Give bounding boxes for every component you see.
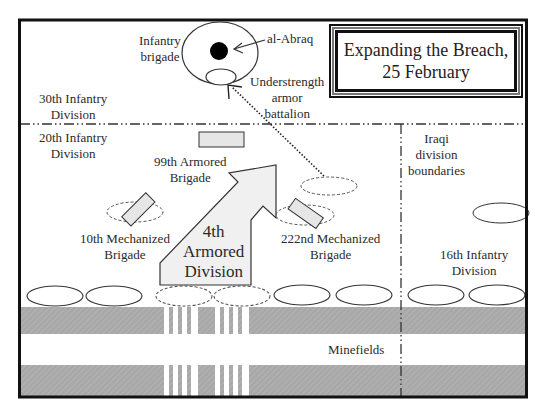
understrength-armor-ellipse [206,69,236,85]
minefield-upper [20,307,526,334]
label-iraqi-division-boundaries: Iraqi division boundaries [408,131,465,179]
map-title-box: Expanding the Breach, 25 February [335,30,517,92]
label-20th-infantry-division: 20th Infantry Division [39,130,107,162]
label-30th-infantry-division: 30th Infantry Division [39,91,107,123]
front-line-units [27,285,525,306]
label-10th-mechanized-brigade: 10th Mechanized Brigade [80,231,170,263]
label-4th-armored-division: 4th Armored Division [183,222,244,282]
al-abraq-marker-icon [210,42,228,60]
minefield-lower [20,365,526,396]
label-minefields: Minefields [328,342,384,358]
unit-222nd-mech-old-position-ellipse [301,177,357,195]
unit-16th-div-reserve-ellipse [473,203,529,223]
map-title-line-1: Expanding the Breach, [344,39,508,61]
unit-222nd-mechanized-brigade [288,198,323,228]
label-infantry-brigade: Infantry brigade [139,33,181,65]
label-understrength-armor: Understrength armor battalion [250,74,324,122]
unit-10th-mechanized-brigade [122,193,155,226]
unit-99th-armored-brigade [199,132,244,147]
label-222nd-mechanized-brigade: 222nd Mechanized Brigade [281,231,380,263]
label-al-abraq: al-Abraq [267,31,313,47]
map-title-line-2: 25 February [382,61,469,83]
label-99th-armored-brigade: 99th Armored Brigade [154,154,227,186]
label-16th-infantry-division: 16th Infantry Division [440,247,508,279]
